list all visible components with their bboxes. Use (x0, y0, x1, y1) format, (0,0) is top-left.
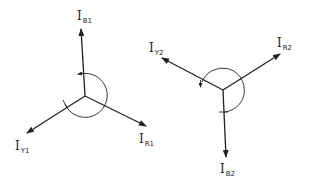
label-sub: R1 (145, 140, 154, 148)
phasor-iy1-arrow (27, 96, 85, 133)
label-main: I (139, 132, 144, 146)
phasor-diagram-canvas (0, 0, 310, 186)
label-ir2: IR2 (277, 37, 292, 52)
rotation-arc-left (65, 73, 107, 117)
label-ir1: IR1 (139, 133, 154, 148)
label-main: I (220, 162, 225, 176)
label-sub: Y2 (155, 49, 164, 57)
label-ib2: IB2 (220, 163, 235, 178)
label-main: I (149, 41, 154, 55)
label-sub: Y1 (21, 147, 30, 155)
phasor-ib1-arrow (81, 29, 85, 96)
label-iy1: IY1 (15, 140, 29, 155)
label-main: I (277, 36, 282, 50)
right-phasor-set (162, 54, 280, 157)
label-iy2: IY2 (149, 42, 163, 57)
phasor-ir2-arrow (223, 54, 280, 90)
label-sub: R2 (283, 44, 292, 52)
left-phasor-set (27, 29, 146, 133)
tick-mark-left (63, 100, 67, 108)
label-ib1: IB1 (77, 10, 92, 25)
label-main: I (77, 9, 82, 23)
phasor-iy2-arrow (162, 58, 223, 90)
phasor-ir1-arrow (85, 96, 146, 126)
label-sub: B2 (226, 170, 235, 178)
label-sub: B1 (83, 17, 92, 25)
label-main: I (15, 139, 20, 153)
phasor-ib2-arrow (223, 90, 226, 157)
